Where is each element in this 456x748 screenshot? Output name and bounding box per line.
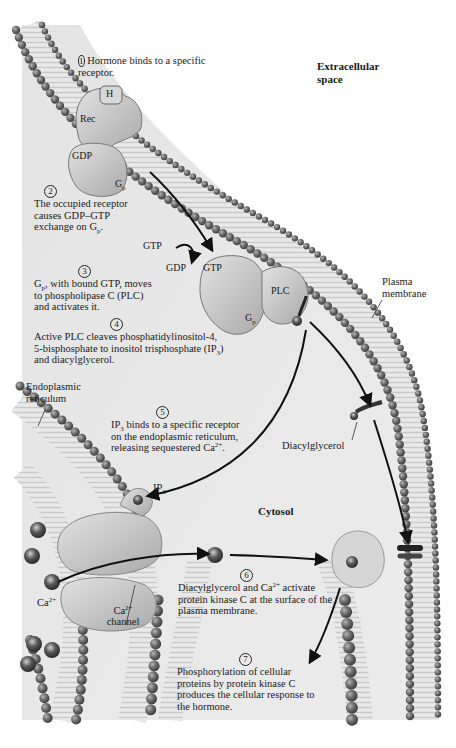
headgroup-bead: [406, 648, 414, 656]
er-headgroup-bead: [76, 685, 86, 695]
headgroup-bead: [433, 585, 439, 591]
er-headgroup-bead: [44, 404, 53, 413]
er-headgroup-bead: [346, 714, 358, 726]
ca-channel-label: Ca2+ channel: [103, 605, 143, 627]
headgroup-bead: [413, 384, 419, 390]
headgroup-bead: [405, 592, 413, 600]
headgroup-bead: [138, 137, 144, 143]
headgroup-bead: [370, 304, 376, 310]
headgroup-bead: [435, 655, 441, 661]
headgroup-bead: [262, 217, 268, 223]
er-headgroup-bead: [51, 410, 60, 419]
protein-kinase-c: [332, 531, 384, 588]
headgroup-bead: [405, 608, 413, 616]
headgroup-bead: [309, 247, 315, 253]
er-headgroup-bead: [71, 714, 81, 724]
step-7: 7 Phosphorylation of cellular proteins b…: [177, 653, 327, 712]
headgroup-bead: [399, 472, 407, 480]
headgroup-bead: [280, 228, 286, 234]
er-headgroup-bead: [118, 482, 127, 491]
headgroup-bead: [429, 494, 435, 500]
headgroup-bead: [178, 166, 184, 172]
headgroup-bead: [435, 711, 441, 717]
er-headgroup-bead: [71, 428, 80, 437]
step-3-number: 3: [78, 265, 91, 278]
headgroup-bead: [406, 680, 414, 688]
headgroup-bead: [398, 464, 406, 472]
headgroup-bead: [331, 264, 337, 270]
er-headgroup-bead: [343, 642, 355, 654]
headgroup-bead: [315, 251, 321, 257]
headgroup-bead: [184, 170, 190, 176]
step-6-number: 6: [240, 569, 253, 582]
headgroup-bead: [380, 378, 388, 386]
er-headgroup-bead: [339, 594, 351, 606]
headgroup-bead: [430, 515, 436, 521]
headgroup-bead: [366, 299, 372, 305]
headgroup-bead: [432, 536, 438, 542]
er-headgroup-bead: [345, 666, 357, 678]
headgroup-bead: [60, 58, 66, 64]
plc-label: PLC: [271, 285, 289, 296]
er-headgroup-bead: [77, 675, 87, 685]
headgroup-bead: [419, 411, 425, 417]
headgroup-bead: [64, 64, 70, 70]
headgroup-bead: [274, 224, 280, 230]
er-headgroup-bead: [340, 606, 352, 618]
headgroup-bead: [202, 181, 208, 187]
step-5-end: .: [222, 442, 225, 453]
er-headgroup-bead: [57, 415, 66, 424]
headgroup-bead: [417, 397, 423, 403]
headgroup-bead: [435, 697, 441, 703]
headgroup-bead: [406, 704, 414, 712]
headgroup-bead: [387, 327, 393, 333]
headgroup-bead: [394, 339, 400, 345]
hormone-label: H: [106, 88, 113, 99]
headgroup-bead: [250, 210, 256, 216]
er-headgroup-bead: [16, 382, 25, 391]
headgroup-bead: [172, 162, 178, 168]
headgroup-bead: [404, 560, 412, 568]
headgroup-bead: [405, 624, 413, 632]
headgroup-bead: [390, 409, 398, 417]
headgroup-bead: [42, 28, 48, 34]
headgroup-bead: [48, 41, 54, 47]
ca-ion: [20, 656, 36, 672]
headgroup-bead: [434, 627, 440, 633]
headgroup-bead: [77, 80, 83, 86]
headgroup-bead: [52, 47, 58, 53]
headgroup-bead: [432, 557, 438, 563]
headgroup-bead: [415, 390, 421, 396]
headgroup-bead: [429, 487, 435, 493]
er-headgroup-bead: [150, 638, 161, 649]
er-headgroup-bead: [102, 460, 111, 469]
headgroup-bead: [432, 550, 438, 556]
headgroup-bead: [433, 564, 439, 570]
headgroup-bead: [161, 154, 167, 160]
ip3-subscript: 3: [162, 488, 166, 496]
headgroup-bead: [18, 41, 26, 49]
headgroup-bead: [431, 522, 437, 528]
headgroup-bead: [244, 206, 250, 212]
headgroup-bead: [56, 52, 62, 58]
headgroup-bead: [297, 239, 303, 245]
er-headgroup-bead: [84, 440, 93, 449]
headgroup-bead: [81, 86, 87, 92]
ca-ion-label: Ca2+: [37, 597, 56, 609]
headgroup-bead: [12, 26, 20, 34]
step-1-text: Hormone binds to a specific receptor.: [78, 55, 206, 78]
headgroup-bead: [388, 401, 396, 409]
headgroup-bead: [418, 404, 424, 410]
er-headgroup-bead: [341, 618, 353, 630]
headgroup-bead: [375, 309, 381, 315]
ca-text: Ca: [37, 597, 49, 608]
ca-charge: 2+: [49, 596, 56, 604]
headgroup-bead: [400, 488, 408, 496]
headgroup-bead: [150, 146, 156, 152]
step-5-number: 5: [156, 406, 169, 419]
headgroup-bead: [238, 203, 244, 209]
headgroup-bead: [434, 634, 440, 640]
er-headgroup-bead: [39, 693, 49, 703]
er-headgroup-bead: [345, 678, 357, 690]
headgroup-bead: [422, 425, 428, 431]
